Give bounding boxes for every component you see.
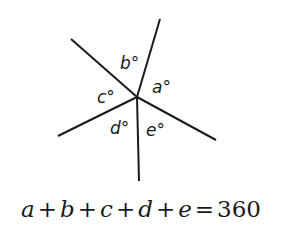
equation-plus: + <box>78 196 97 222</box>
equation-plus: + <box>156 196 175 222</box>
equation-term-a: a <box>21 196 35 222</box>
equation-plus: + <box>38 196 57 222</box>
angle-label-a: a° <box>152 77 171 97</box>
angle-label-e: e° <box>146 120 165 140</box>
equation-equals: = <box>195 196 214 222</box>
equation-plus: + <box>116 196 135 222</box>
equation-term-d: d <box>138 196 153 222</box>
equation-term-c: c <box>100 196 113 222</box>
angle-sum-equation: a+b+c+d+e=360 <box>0 196 282 222</box>
angle-label-b: b° <box>120 53 139 73</box>
rays <box>58 19 216 181</box>
equation-term-e: e <box>178 196 192 222</box>
equation-result: 360 <box>217 196 261 222</box>
angle-label-c: c° <box>97 87 115 107</box>
equation-term-b: b <box>60 196 75 222</box>
ray-bottom <box>137 97 139 181</box>
angle-labels: a° b° c° d° e° <box>97 53 171 140</box>
angle-label-d: d° <box>110 118 129 138</box>
